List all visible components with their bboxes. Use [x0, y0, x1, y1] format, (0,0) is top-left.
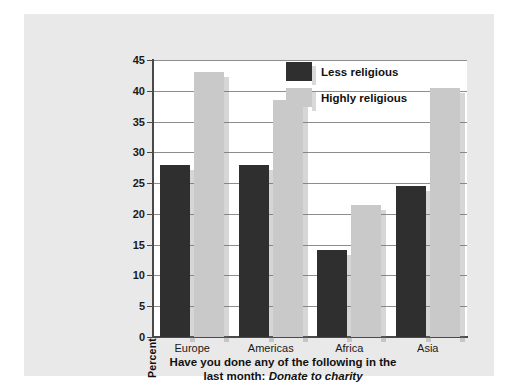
bar-africa-less-religious	[317, 250, 347, 337]
caption-line-2-italic: Donate to charity	[269, 370, 363, 382]
legend-item-highly-religious: Highly religious	[286, 88, 461, 107]
bar-europe-less-religious	[160, 165, 190, 337]
figure-caption: Have you done any of the following in th…	[48, 355, 518, 383]
caption-line-2-prefix: last month:	[203, 370, 265, 382]
legend-swatch-icon-less-religious	[286, 62, 312, 81]
bar-americas-highly-religious	[273, 100, 303, 337]
legend-label-highly-religious: Highly religious	[321, 92, 407, 104]
chart-legend: Less religious Highly religious	[286, 62, 461, 114]
bar-americas-less-religious	[239, 165, 269, 337]
legend-swatch-icon-highly-religious	[286, 88, 312, 107]
y-axis-tick-label: 0	[119, 332, 145, 343]
x-axis-label-europe: Europe	[153, 342, 232, 354]
bar-europe-highly-religious	[194, 72, 224, 337]
bar-asia-highly-religious	[430, 88, 460, 337]
bar-africa-highly-religious	[351, 205, 381, 337]
y-axis-tick-label: 40	[119, 86, 145, 97]
bar-asia-less-religious	[396, 186, 426, 337]
y-axis-title-wrapper: Percent	[116, 174, 136, 244]
x-axis-label-africa: Africa	[310, 342, 389, 354]
y-axis-tick-label: 30	[119, 147, 145, 158]
legend-item-less-religious: Less religious	[286, 62, 461, 81]
y-axis-tick-label: 5	[119, 301, 145, 312]
figure-page: 051015202530354045 Percent EuropeAmerica…	[0, 0, 518, 392]
figure-panel: 051015202530354045 Percent EuropeAmerica…	[24, 14, 494, 376]
caption-line-1: Have you done any of the following in th…	[170, 356, 397, 368]
legend-label-less-religious: Less religious	[321, 66, 398, 78]
y-axis-tick-label: 45	[119, 55, 145, 66]
x-axis-label-asia: Asia	[389, 342, 468, 354]
y-axis-tick-label: 35	[119, 117, 145, 128]
y-axis-tick-label: 10	[119, 270, 145, 281]
x-axis-label-americas: Americas	[232, 342, 311, 354]
